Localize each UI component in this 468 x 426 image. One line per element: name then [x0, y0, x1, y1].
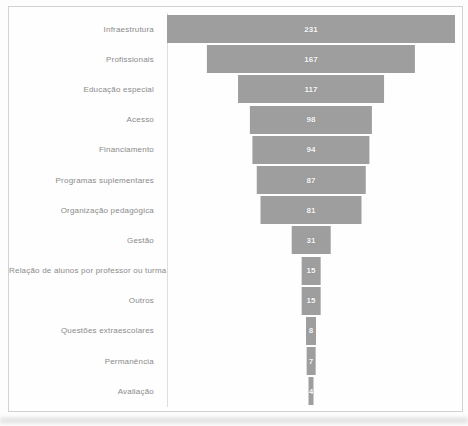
category-label: Permanência: [9, 357, 167, 366]
bar-value-label: 15: [307, 266, 316, 275]
funnel-bar: 81: [261, 196, 362, 224]
bar-value-label: 4: [309, 387, 313, 396]
category-label: Acesso: [9, 115, 167, 124]
funnel-row: Infraestrutura231: [9, 14, 462, 44]
row-plot: 8: [167, 317, 455, 345]
funnel-bar: 8: [306, 317, 316, 345]
bar-value-label: 87: [307, 176, 316, 185]
row-plot: 7: [167, 347, 455, 375]
category-label: Financiamento: [9, 145, 167, 154]
row-plot: 4: [167, 377, 455, 405]
bar-value-label: 231: [304, 25, 317, 34]
funnel-row: Programas suplementares87: [9, 165, 462, 195]
funnel-rows: Infraestrutura231Profissionais167Educaçã…: [9, 14, 462, 406]
row-plot: 31: [167, 226, 455, 254]
funnel-bar: 117: [238, 75, 384, 103]
bar-value-label: 81: [307, 206, 316, 215]
category-label: Outros: [9, 296, 167, 305]
category-label: Profissionais: [9, 55, 167, 64]
funnel-row: Educação especial117: [9, 74, 462, 104]
bar-value-label: 94: [307, 145, 316, 154]
row-plot: 98: [167, 106, 455, 134]
row-plot: 167: [167, 45, 455, 73]
row-plot: 94: [167, 136, 455, 164]
funnel-bar: 98: [250, 106, 372, 134]
funnel-bar: 94: [252, 136, 369, 164]
funnel-bar: 167: [207, 45, 415, 73]
category-label: Programas suplementares: [9, 176, 167, 185]
funnel-row: Avaliação4: [9, 376, 462, 406]
category-label: Educação especial: [9, 85, 167, 94]
funnel-bar: 4: [309, 377, 314, 405]
funnel-row: Questões extraescolares8: [9, 316, 462, 346]
funnel-bar: 31: [292, 226, 331, 254]
funnel-bar: 15: [302, 287, 321, 315]
funnel-bar: 231: [167, 15, 455, 43]
funnel-row: Outros15: [9, 286, 462, 316]
bar-value-label: 15: [307, 296, 316, 305]
bar-value-label: 7: [309, 357, 313, 366]
row-plot: 15: [167, 287, 455, 315]
bar-value-label: 98: [307, 115, 316, 124]
row-plot: 15: [167, 257, 455, 285]
row-plot: 117: [167, 75, 455, 103]
bar-value-label: 167: [304, 55, 317, 64]
category-label: Relação de alunos por professor ou turma: [9, 266, 167, 275]
category-label: Organização pedagógica: [9, 206, 167, 215]
category-label: Infraestrutura: [9, 25, 167, 34]
category-label: Gestão: [9, 236, 167, 245]
funnel-row: Organização pedagógica81: [9, 195, 462, 225]
funnel-row: Acesso98: [9, 105, 462, 135]
funnel-row: Gestão31: [9, 225, 462, 255]
funnel-row: Relação de alunos por professor ou turma…: [9, 256, 462, 286]
row-plot: 81: [167, 196, 455, 224]
funnel-bar: 87: [257, 166, 366, 194]
chart-frame: Infraestrutura231Profissionais167Educaçã…: [8, 6, 463, 412]
category-label: Questões extraescolares: [9, 326, 167, 335]
row-plot: 87: [167, 166, 455, 194]
funnel-row: Financiamento94: [9, 135, 462, 165]
row-plot: 231: [167, 15, 455, 43]
bar-value-label: 8: [309, 326, 313, 335]
funnel-chart: Infraestrutura231Profissionais167Educaçã…: [0, 0, 468, 426]
scan-artifact: [0, 418, 468, 423]
category-label: Avaliação: [9, 387, 167, 396]
bar-value-label: 31: [307, 236, 316, 245]
funnel-row: Profissionais167: [9, 44, 462, 74]
bar-value-label: 117: [305, 85, 318, 94]
funnel-bar: 7: [307, 347, 316, 375]
funnel-row: Permanência7: [9, 346, 462, 376]
funnel-bar: 15: [302, 257, 321, 285]
